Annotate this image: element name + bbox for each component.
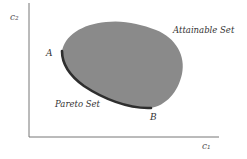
y-axis-label: c₂ bbox=[10, 13, 19, 22]
point-b-label: B bbox=[150, 113, 157, 122]
point-a-label: A bbox=[46, 49, 53, 58]
attainable-set-label: Attainable Set bbox=[173, 26, 234, 35]
pareto-diagram bbox=[0, 0, 247, 159]
pareto-set-label: Pareto Set bbox=[55, 100, 100, 109]
x-axis-label: c₁ bbox=[202, 142, 211, 151]
attainable-set-region bbox=[62, 21, 183, 108]
